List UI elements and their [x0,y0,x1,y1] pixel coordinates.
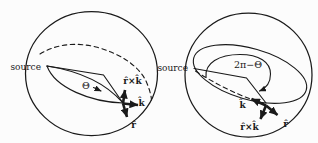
r-cross-k-vector-arrow [123,90,125,104]
theta-angle-label: Θ [82,80,90,91]
r-vector-arrow [266,106,278,116]
source-label: source [10,62,41,72]
two-pi-minus-theta-label: 2π−Θ [234,59,262,70]
r-cross-k-label: r̂×k̂ [123,74,142,86]
ray-path-upper-kinked-line [194,69,266,104]
k-label: k̂ [138,96,145,108]
left-sphere-panel: source Θ r̂×k̂ k̂ r̂ [10,12,157,136]
sphere-outline [185,13,312,137]
great-circle-back-dashed-arc [40,44,152,100]
k-label: k̂ [239,98,246,110]
r-label: r̂ [283,119,288,129]
geodesic-dashed-line [196,71,251,99]
source-label: source [157,63,188,73]
r-cross-k-vector-arrow [261,106,267,120]
two-sphere-ray-path-figure: source Θ r̂×k̂ k̂ r̂ source 2π−Θ k̂ r̂×k… [0,0,318,143]
r-cross-k-label: r̂×k̂ [240,120,259,132]
k-vector-arrow [123,104,138,106]
r-label: r̂ [131,120,136,130]
theta-direction-arrow [94,88,102,92]
r-vector-arrow [123,104,127,118]
right-sphere-panel: source 2π−Θ k̂ r̂×k̂ r̂ [157,13,313,137]
